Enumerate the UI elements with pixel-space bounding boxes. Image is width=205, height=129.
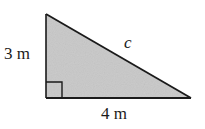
right-triangle-diagram: 3 m 4 m c [0, 0, 205, 129]
horizontal-side-label: 4 m [101, 105, 127, 122]
hypotenuse-label: c [124, 34, 132, 51]
vertical-side-label: 3 m [4, 45, 30, 62]
